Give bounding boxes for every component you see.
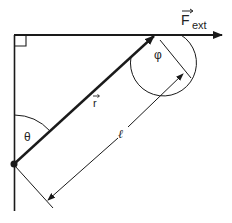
theta-angle-arc	[15, 115, 51, 131]
force-symbol: F	[181, 12, 190, 28]
r-symbol: r	[93, 97, 97, 109]
right-angle-marker	[15, 35, 26, 46]
pivot-point	[11, 161, 18, 168]
force-label: F ext	[181, 9, 207, 31]
lever-arm-dimension-lower	[48, 138, 118, 200]
phi-label: φ	[154, 48, 162, 62]
position-vector-r	[14, 36, 154, 164]
torque-diagram: F ext r θ φ ℓ	[0, 0, 232, 223]
lever-arm-label: ℓ	[118, 127, 123, 141]
force-subscript: ext	[192, 19, 207, 31]
theta-label: θ	[24, 130, 31, 144]
lever-arm-extension-top	[160, 40, 191, 78]
position-vector-label: r	[93, 95, 100, 110]
lever-arm-extension-bottom	[15, 166, 53, 208]
